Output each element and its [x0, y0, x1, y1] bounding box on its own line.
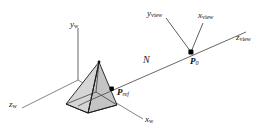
x-world-axis-label: xw	[145, 115, 153, 124]
y-view-axis-line	[166, 18, 191, 52]
x-view-axis-label: xview	[198, 11, 213, 20]
figure-canvas	[0, 0, 271, 138]
z-view-axis-label: zview	[236, 33, 251, 42]
view-coordinate-system-figure: yw zw xw yview xview zview P0 Pref N	[0, 0, 271, 138]
point-pref-label: Pref	[117, 88, 129, 97]
pyramid-object-group	[66, 61, 117, 113]
z-view-axis-line	[86, 32, 246, 102]
point-p0-label: P0	[190, 57, 199, 66]
point-p0-marker	[188, 49, 193, 54]
normal-vector-label: N	[143, 55, 150, 65]
x-view-axis-line	[191, 23, 203, 52]
marked-points-group	[110, 49, 194, 91]
z-world-axis-label: zw	[9, 100, 17, 109]
pyramid-apex-point	[98, 61, 101, 64]
y-world-axis-label: yw	[70, 20, 78, 29]
view-axis-ray-group	[78, 32, 246, 106]
view-axes-group	[166, 18, 203, 52]
y-view-axis-label: yview	[147, 9, 162, 18]
point-pref-marker	[110, 87, 114, 91]
